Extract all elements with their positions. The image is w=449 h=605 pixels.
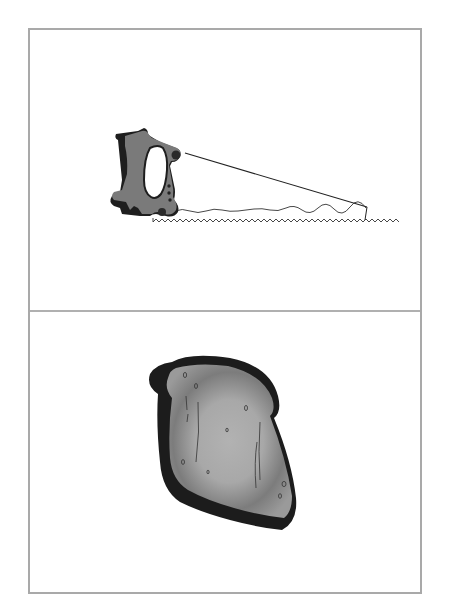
saw-teeth: [153, 218, 399, 222]
panel-bread: slice of toast: [30, 312, 420, 592]
saw-rivet: [167, 191, 170, 194]
saw-blade-spine: [185, 153, 367, 207]
bread-slice-icon: [30, 312, 420, 592]
saw-blade-tip: [365, 207, 367, 220]
saw-icon: [30, 30, 420, 310]
saw-bolt-top: [172, 151, 181, 160]
saw-rivet: [168, 198, 171, 201]
panel-saw: hand saw: [30, 30, 420, 312]
saw-rivet: [167, 184, 170, 187]
picture-card: hand saw slice of toast: [28, 28, 422, 594]
saw-bolt-bottom: [158, 208, 166, 216]
saw-blade-etch: [175, 202, 366, 213]
saw-handle-grip-hole: [144, 146, 167, 198]
